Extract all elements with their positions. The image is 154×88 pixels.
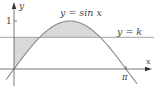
line-label: y = k (116, 26, 142, 37)
curve-label: y = sin x (59, 7, 102, 18)
shaded-regions (14, 21, 100, 69)
x-axis-label: x (146, 57, 151, 66)
y-axis-label: y (18, 1, 25, 11)
x-axis-arrowhead-icon (145, 67, 152, 71)
x-tick-label-pi: π (121, 72, 128, 82)
y-axis-arrowhead-icon (12, 2, 16, 9)
y-tick-label-1: 1 (6, 16, 12, 26)
sine-area-diagram: y 1 y = sin x y = k x π (0, 0, 154, 88)
